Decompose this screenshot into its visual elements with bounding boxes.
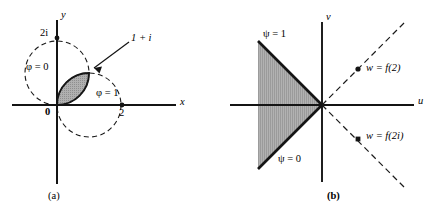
label-phi-one: φ = 1: [96, 88, 118, 99]
label-w-f-2: w = f(2): [366, 63, 401, 74]
figure-container: 2i 0 2 φ = 0 φ = 1 1 + i x y (a) ψ =: [0, 0, 432, 214]
tick-2i: [55, 36, 60, 41]
label-phi-zero: φ = 0: [26, 62, 48, 73]
axis-label-u: u: [418, 96, 423, 107]
panel-b-graphic: [216, 0, 432, 214]
label-one-plus-i: 1 + i: [131, 33, 152, 44]
axis-label-v: v: [326, 12, 331, 23]
tick-label-origin: 0: [45, 107, 50, 118]
panel-b: ψ = 1 ψ = 0 w = f(2) w = f(2i) u v (b): [216, 0, 432, 214]
dashed-ray-lower: [322, 105, 406, 189]
caption-panel-a: (a): [48, 190, 60, 201]
label-psi-one: ψ = 1: [263, 29, 286, 40]
caption-panel-b: (b): [327, 190, 340, 201]
leader-one-plus-i: [94, 42, 129, 74]
point-w-f-2: [355, 66, 360, 71]
panel-a: 2i 0 2 φ = 0 φ = 1 1 + i x y (a): [0, 0, 216, 214]
tick-label-2i: 2i: [40, 28, 48, 39]
axis-label-y: y: [61, 10, 66, 21]
label-psi-zero: ψ = 0: [278, 154, 301, 165]
axis-label-x: x: [180, 97, 185, 108]
point-w-f-2i: [356, 137, 361, 142]
tick-label-2: 2: [119, 108, 124, 119]
label-w-f-2i: w = f(2i): [366, 131, 403, 142]
